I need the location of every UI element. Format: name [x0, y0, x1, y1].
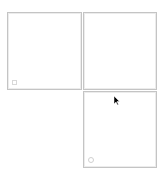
mouse-pointer-icon [114, 96, 120, 105]
panel-top-left[interactable] [7, 12, 82, 90]
panel-bottom-right[interactable] [83, 91, 157, 168]
circle-icon[interactable] [88, 157, 94, 163]
panel-top-right[interactable] [83, 12, 157, 90]
square-icon[interactable] [12, 80, 17, 85]
